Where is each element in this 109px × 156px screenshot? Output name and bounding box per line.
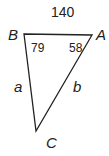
vertex-a-label: A	[96, 27, 106, 42]
side-b-label: b	[73, 79, 81, 94]
angle-a-value: 58	[69, 42, 82, 54]
angle-b-value: 79	[31, 42, 44, 54]
side-a-label: a	[14, 79, 22, 94]
vertex-c-label: C	[46, 135, 57, 150]
vertex-b-label: B	[8, 27, 18, 42]
side-ab-length: 140	[51, 5, 74, 19]
